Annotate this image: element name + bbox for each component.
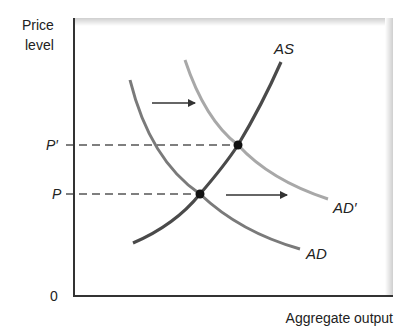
p-prime-label: P′ — [46, 137, 59, 153]
ad-curve — [130, 80, 300, 249]
y-axis-label-line2: level — [25, 37, 54, 53]
frame-right-shade — [385, 18, 393, 296]
x-axis-label: Aggregate output — [286, 310, 394, 326]
as-curve — [133, 62, 281, 243]
equilibrium-point-p — [196, 190, 205, 199]
equilibrium-point-p-prime — [234, 141, 243, 150]
y-axis-label-line1: Price — [22, 17, 54, 33]
ad-label: AD — [305, 245, 327, 262]
frame-top-shade — [74, 18, 393, 26]
origin-label: 0 — [50, 288, 58, 304]
ad-prime-curve — [185, 60, 328, 199]
ad-prime-label: AD′ — [332, 199, 358, 216]
ad-as-diagram: Price level Aggregate output 0 P′ P AS A… — [0, 0, 415, 333]
p-label: P — [52, 186, 62, 202]
as-label: AS — [273, 40, 294, 57]
